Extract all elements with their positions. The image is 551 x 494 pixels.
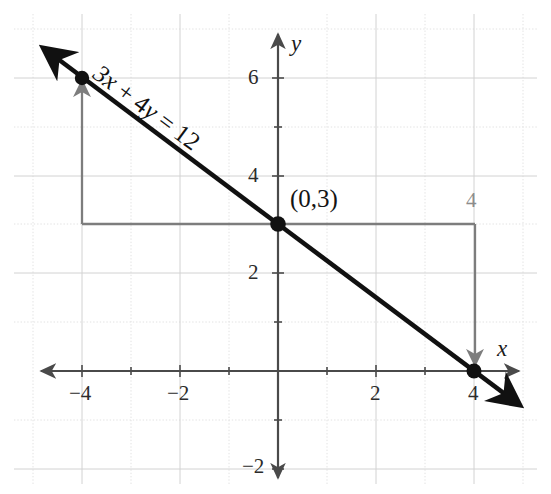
x-axis-label: x (497, 337, 507, 360)
y-tick-label-6: 6 (248, 67, 259, 88)
point-y-intercept[interactable] (270, 216, 286, 232)
point-label-0-3: (0,3) (290, 186, 338, 211)
y-tick-label-neg2: −2 (242, 456, 264, 477)
y-tick-label-2: 2 (248, 262, 259, 283)
point-neg4-6[interactable] (75, 71, 89, 85)
y-axis-label: y (291, 32, 301, 55)
x-tick-label-2: 2 (370, 383, 381, 404)
coordinate-plane (0, 0, 551, 494)
x-tick-label-4: 4 (468, 383, 479, 404)
point-x-intercept[interactable] (467, 364, 482, 379)
y-tick-label-4: 4 (248, 165, 259, 186)
x-tick-label-neg2: −2 (167, 383, 189, 404)
x-tick-label-neg4: −4 (69, 383, 91, 404)
graph-figure: y x 6 4 2 −2 −4 −2 2 4 (0,3) 4 3x + 4y =… (0, 0, 551, 494)
run-length-label: 4 (466, 190, 477, 211)
